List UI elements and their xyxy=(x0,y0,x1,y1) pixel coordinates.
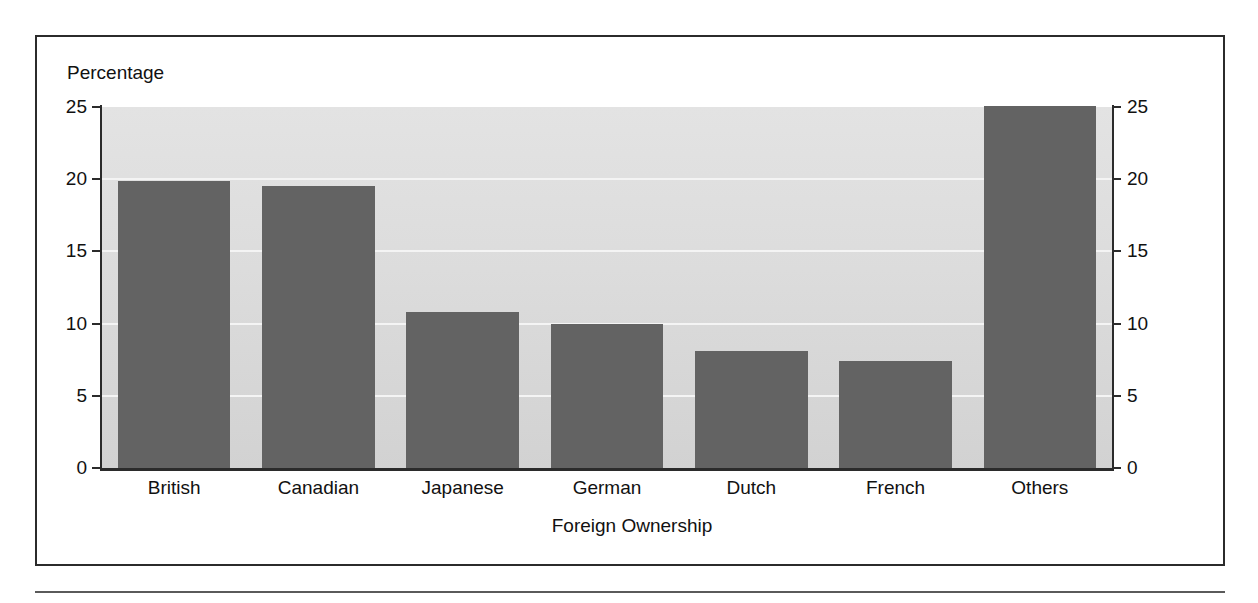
bar xyxy=(695,351,808,468)
y-tick-label-right: 0 xyxy=(1127,457,1167,479)
gridline xyxy=(102,178,1112,180)
y-tick-label-right: 20 xyxy=(1127,168,1167,190)
y-tick-right xyxy=(1112,106,1121,108)
x-category-label: British xyxy=(148,477,201,499)
x-category-label: French xyxy=(866,477,925,499)
y-axis-title: Percentage xyxy=(67,62,164,84)
y-tick-left xyxy=(92,250,101,252)
y-tick-label-left: 25 xyxy=(47,96,87,118)
y-tick-label-right: 10 xyxy=(1127,313,1167,335)
y-tick-left xyxy=(92,178,101,180)
bar xyxy=(551,324,664,468)
y-tick-label-left: 5 xyxy=(47,385,87,407)
y-tick-right xyxy=(1112,178,1121,180)
bar xyxy=(262,186,375,468)
y-axis-right-line xyxy=(1112,105,1114,470)
y-tick-label-left: 20 xyxy=(47,168,87,190)
chart-figure-frame: Percentage 0510152025 0510152025 British… xyxy=(35,35,1225,566)
y-tick-right xyxy=(1112,250,1121,252)
y-tick-left xyxy=(92,323,101,325)
bar xyxy=(984,106,1097,468)
x-category-label: German xyxy=(573,477,642,499)
y-tick-right xyxy=(1112,467,1121,469)
x-axis-title: Foreign Ownership xyxy=(37,515,1227,537)
bar xyxy=(406,312,519,468)
y-tick-label-right: 5 xyxy=(1127,385,1167,407)
x-category-label: Canadian xyxy=(278,477,359,499)
y-tick-label-left: 0 xyxy=(47,457,87,479)
y-tick-left xyxy=(92,106,101,108)
y-tick-label-left: 15 xyxy=(47,240,87,262)
gridline xyxy=(102,250,1112,252)
y-tick-right xyxy=(1112,323,1121,325)
y-tick-label-right: 25 xyxy=(1127,96,1167,118)
bar xyxy=(118,181,231,468)
y-tick-left xyxy=(92,467,101,469)
x-category-label: Others xyxy=(1011,477,1068,499)
y-tick-label-left: 10 xyxy=(47,313,87,335)
footer-rule xyxy=(35,591,1225,593)
x-category-label: Dutch xyxy=(726,477,776,499)
y-axis-left-line xyxy=(100,105,102,470)
x-axis-line xyxy=(100,468,1114,471)
x-category-label: Japanese xyxy=(422,477,504,499)
bar xyxy=(839,361,952,468)
y-tick-left xyxy=(92,395,101,397)
y-tick-right xyxy=(1112,395,1121,397)
y-tick-label-right: 15 xyxy=(1127,240,1167,262)
